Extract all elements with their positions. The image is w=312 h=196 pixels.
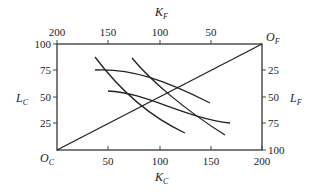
diagram-canvas: 50 100 150 200 200 150 100 50 100 75 50 … (0, 0, 312, 196)
top-tick-label: 50 (206, 26, 218, 38)
axis-label-lf: LF (289, 91, 302, 107)
right-tick-label: 100 (268, 144, 285, 156)
bottom-tick-label: 100 (152, 155, 169, 167)
isoquant-c-1 (95, 57, 185, 133)
axis-label-lc: LC (15, 91, 29, 107)
right-tick-label: 25 (268, 64, 280, 76)
bottom-tick-label: 150 (203, 155, 220, 167)
top-tick-label: 100 (152, 26, 169, 38)
bottom-tick-label: 200 (254, 155, 271, 167)
left-tick-label: 50 (40, 91, 52, 103)
edgeworth-box-diagram: 50 100 150 200 200 150 100 50 100 75 50 … (0, 0, 312, 196)
right-tick-label: 50 (268, 91, 280, 103)
isoquant-f-1 (95, 70, 210, 103)
top-tick-label: 150 (100, 26, 117, 38)
origin-label-oc: OC (40, 151, 55, 167)
left-tick-label: 25 (40, 117, 52, 129)
isoquant-c-2 (132, 58, 225, 135)
contract-curve (57, 44, 262, 150)
axis-label-kc: KC (154, 170, 169, 186)
axis-label-kf: KF (154, 5, 168, 21)
origin-label-of: OF (266, 30, 280, 46)
left-tick-label: 100 (35, 38, 52, 50)
left-tick-label: 75 (40, 64, 52, 76)
bottom-tick-label: 50 (103, 155, 115, 167)
isoquant-f-2 (108, 91, 230, 123)
right-tick-label: 75 (268, 117, 280, 129)
top-tick-label: 200 (49, 26, 66, 38)
